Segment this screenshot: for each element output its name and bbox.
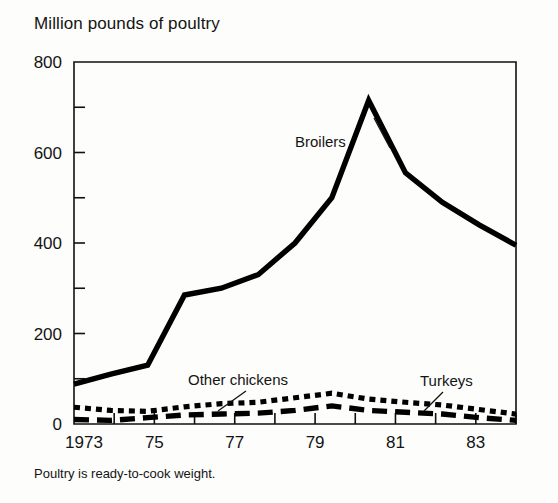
y-tick-label: 600 xyxy=(34,144,62,163)
y-tick-label: 200 xyxy=(34,325,62,344)
annotation-other-chickens: Other chickens xyxy=(188,371,288,411)
series-label-broilers: Broilers xyxy=(295,133,346,150)
x-tick-label: 79 xyxy=(306,433,325,452)
x-tick-label: 77 xyxy=(225,433,244,452)
x-tick-label: 1973 xyxy=(65,433,103,452)
series-label-other-chickens: Other chickens xyxy=(188,371,288,388)
y-tick-label: 0 xyxy=(53,415,62,434)
x-tick-label: 81 xyxy=(386,433,405,452)
x-tick-label: 75 xyxy=(145,433,164,452)
x-tick-label: 83 xyxy=(466,433,485,452)
y-tick-label: 800 xyxy=(34,53,62,72)
y-tick-label: 400 xyxy=(34,234,62,253)
y-axis-tick-labels: 0200400600800 xyxy=(34,53,62,434)
x-axis-tick-labels: 19737577798183 xyxy=(65,433,485,452)
chart-canvas: 0200400600800 19737577798183 Broilers Ot… xyxy=(0,0,558,503)
chart-footnote: Poultry is ready-to-cook weight. xyxy=(34,466,215,481)
annotation-broilers: Broilers xyxy=(295,118,390,150)
poultry-line-chart: Million pounds of poultry 0200400600800 … xyxy=(0,0,558,503)
series-label-turkeys: Turkeys xyxy=(420,372,473,389)
y-axis-ticks xyxy=(74,107,85,379)
